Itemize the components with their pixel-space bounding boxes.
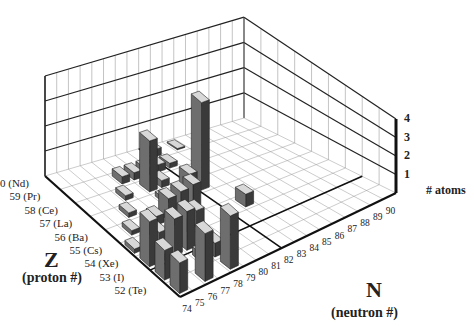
- n-tick-label: 81: [271, 261, 281, 271]
- z-tick-label: 52 (Te): [115, 284, 147, 296]
- bar-side-face: [175, 216, 183, 256]
- bar-side-face: [202, 100, 210, 190]
- wall-level-line: [45, 42, 244, 101]
- z-tick-label: 53 (I): [100, 271, 125, 283]
- z-tick-label: 59 (Pr): [10, 190, 41, 202]
- bar-front-face: [220, 207, 230, 269]
- n-tick-label: 88: [360, 218, 370, 228]
- wall-level-line: [244, 68, 396, 156]
- wall-level-line: [244, 42, 396, 137]
- n-tick-label: 82: [284, 255, 294, 265]
- atoms-tick-label: 3: [404, 130, 410, 145]
- n-tick-label: 85: [322, 237, 332, 247]
- z-tick-label: 56 (Ba): [55, 231, 88, 243]
- z-tick-label: 60 (Nd): [0, 177, 29, 189]
- n-axis-subtitle: (neutron #): [331, 305, 398, 321]
- n-tick-label: 84: [309, 243, 319, 253]
- wall-level-line: [244, 93, 396, 175]
- n-tick-label: 75: [195, 298, 205, 308]
- bar-side-face: [180, 259, 188, 293]
- bar-side-face: [205, 230, 213, 282]
- n-tick-label: 76: [208, 292, 218, 302]
- n-axis-title: N: [366, 277, 382, 303]
- floor-grid-line: [232, 121, 383, 199]
- atoms-tick-label: 2: [404, 148, 410, 163]
- atoms-tick-label: 1: [404, 167, 410, 182]
- n-tick-label: 74: [182, 304, 192, 314]
- z-tick-label: 55 (Cs): [70, 244, 103, 256]
- z-axis-subtitle: (proton #): [22, 270, 82, 286]
- floor-grid-line: [244, 118, 396, 193]
- n-tick-label: 79: [246, 273, 256, 283]
- z-tick-label: 54 (Xe): [85, 257, 119, 269]
- n-tick-label: 80: [259, 267, 269, 277]
- z-tick-label: 58 (Ce): [25, 204, 58, 216]
- n-tick-label: 86: [335, 231, 345, 241]
- bar-front-face: [195, 224, 205, 281]
- bar-side-face: [150, 138, 158, 192]
- bar-side-face: [230, 212, 238, 269]
- bar-front-face: [140, 132, 150, 191]
- n-tick-label: 77: [220, 286, 230, 296]
- z-tick-label: 57 (La): [40, 217, 73, 229]
- bar-side-face: [187, 208, 195, 250]
- n-tick-label: 89: [373, 212, 383, 222]
- atoms-tick-label: 4: [404, 111, 410, 126]
- atoms-axis-title: # atoms: [426, 183, 466, 198]
- wall-level-line: [45, 17, 244, 76]
- n-tick-label: 83: [297, 249, 307, 259]
- n-tick-label: 78: [233, 279, 243, 289]
- wall-level-line: [244, 17, 396, 119]
- wall-level-line: [45, 68, 244, 126]
- n-tick-label: 87: [348, 224, 358, 234]
- n-tick-label: 90: [386, 206, 396, 216]
